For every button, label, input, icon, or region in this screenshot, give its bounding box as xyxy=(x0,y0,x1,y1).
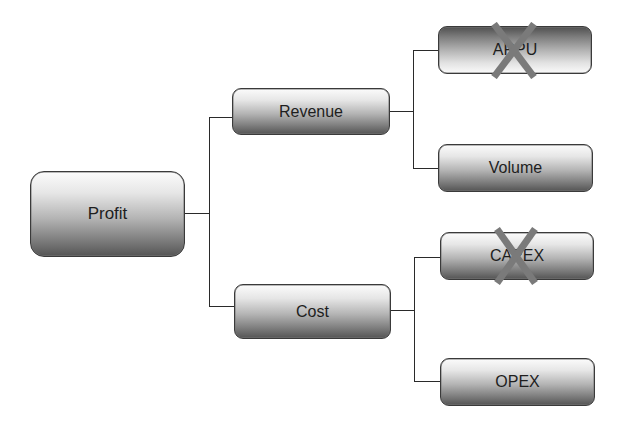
connector-to-volume xyxy=(413,168,438,169)
connector-revenue-trunk xyxy=(389,111,413,112)
node-volume: Volume xyxy=(438,144,593,192)
node-cost-label: Cost xyxy=(296,303,329,321)
connector-cost-trunk xyxy=(390,310,414,311)
node-capex: CAPEX xyxy=(440,232,594,280)
node-volume-label: Volume xyxy=(489,159,542,177)
node-opex-label: OPEX xyxy=(495,373,539,391)
connector-profit-spine xyxy=(209,117,210,307)
node-profit-label: Profit xyxy=(88,204,128,224)
node-opex: OPEX xyxy=(440,358,595,406)
connector-to-opex xyxy=(414,381,440,382)
connector-to-cost xyxy=(209,306,234,307)
node-arpu-label: ARPU xyxy=(493,41,537,59)
connector-to-capex xyxy=(414,257,440,258)
connector-profit-trunk xyxy=(184,213,209,214)
node-revenue: Revenue xyxy=(232,88,390,135)
node-revenue-label: Revenue xyxy=(279,103,343,121)
node-capex-label: CAPEX xyxy=(490,247,544,265)
node-cost: Cost xyxy=(234,284,391,339)
node-profit: Profit xyxy=(30,171,185,257)
connector-cost-spine xyxy=(414,257,415,382)
connector-to-revenue xyxy=(209,117,233,118)
connector-to-arpu xyxy=(413,50,438,51)
node-arpu: ARPU xyxy=(438,26,592,74)
connector-revenue-spine xyxy=(413,50,414,169)
profit-tree-diagram: Profit Revenue Cost ARPU Volume CAPEX OP… xyxy=(0,0,627,422)
